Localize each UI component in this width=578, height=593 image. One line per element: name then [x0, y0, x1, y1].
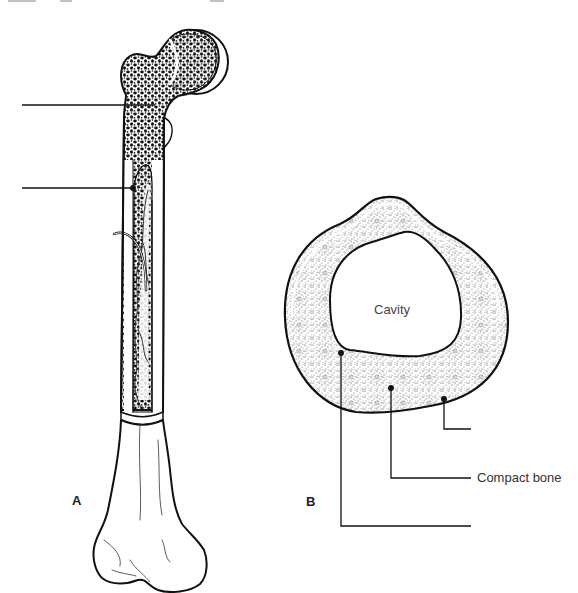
cavity-label: Cavity	[374, 302, 410, 317]
top-text-fragments	[8, 0, 224, 2]
panel-letter-b: B	[306, 494, 315, 509]
leader-periosteum	[444, 399, 471, 429]
femur-illustration	[93, 30, 228, 592]
distal-femur-outline	[93, 420, 206, 592]
lesser-trochanter	[164, 118, 172, 148]
shaft-wall-left	[124, 160, 133, 412]
shaft-wall-right	[152, 160, 163, 412]
bone-diagram	[0, 0, 578, 593]
compact-bone-label: Compact bone	[477, 470, 562, 485]
panel-letter-a: A	[72, 493, 81, 508]
